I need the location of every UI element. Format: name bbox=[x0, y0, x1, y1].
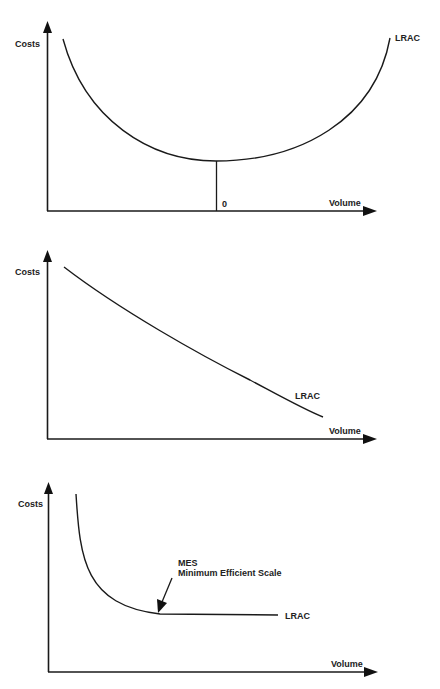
y-axis-label: Costs bbox=[18, 499, 43, 509]
lrac-curve bbox=[63, 38, 390, 161]
x-axis-label: Volume bbox=[331, 659, 363, 669]
y-axis-arrow-icon bbox=[43, 250, 52, 262]
curve-label: LRAC bbox=[395, 33, 420, 43]
x-axis-label: Volume bbox=[329, 198, 361, 208]
chart-l-shaped-lrac: Costs Volume LRAC MES Minimum Efficient … bbox=[18, 482, 378, 677]
lrac-curve bbox=[64, 267, 323, 417]
y-axis-label: Costs bbox=[15, 267, 40, 277]
lrac-curve bbox=[76, 494, 278, 615]
mes-pointer-line bbox=[162, 578, 172, 602]
y-axis-arrow-icon bbox=[43, 21, 52, 33]
minimum-point-label: 0 bbox=[222, 199, 227, 209]
mes-arrow-icon bbox=[157, 599, 167, 613]
mes-description: Minimum Efficient Scale bbox=[178, 568, 282, 578]
x-axis-arrow-icon bbox=[364, 667, 378, 677]
x-axis-arrow-icon bbox=[363, 206, 377, 216]
x-axis-label: Volume bbox=[329, 426, 361, 436]
y-axis-arrow-icon bbox=[44, 482, 53, 494]
chart-declining-lrac: Costs Volume LRAC bbox=[15, 250, 377, 444]
x-axis-arrow-icon bbox=[363, 434, 377, 444]
y-axis-label: Costs bbox=[15, 39, 40, 49]
chart-u-shaped-lrac: Costs Volume LRAC 0 bbox=[15, 21, 420, 216]
cost-curves-diagram: Costs Volume LRAC 0 Costs Volume LRAC Co… bbox=[0, 0, 440, 689]
mes-label: MES bbox=[178, 558, 198, 568]
curve-label: LRAC bbox=[285, 611, 310, 621]
curve-label: LRAC bbox=[295, 391, 320, 401]
